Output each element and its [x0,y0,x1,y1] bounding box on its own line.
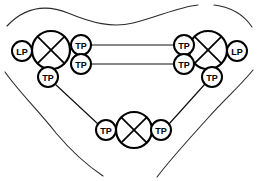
node-tp-right-down[interactable]: TP [202,67,222,87]
node-tp-bottom-left-label: TP [100,126,112,136]
node-lp-right-label: LP [231,47,243,57]
big-node-bottom[interactable] [116,112,152,148]
diagram-canvas: LP LP TP TP TP TP TP TP [0,0,257,181]
node-lp-left-label: LP [16,47,28,57]
region-boundary-group [5,5,253,177]
node-lp-right[interactable]: LP [227,41,247,61]
node-tp-right-down-label: TP [206,73,218,83]
node-tp-left-down-label: TP [42,73,54,83]
boundary-left-curve [5,72,103,176]
node-tp-right-lower-label: TP [178,60,190,70]
node-tp-left-upper-label: TP [75,41,87,51]
link-left-diagonal [55,84,98,124]
node-tp-left-upper[interactable]: TP [71,35,91,55]
node-lp-left[interactable]: LP [12,41,32,61]
node-tp-bottom-right[interactable]: TP [151,120,171,140]
boundary-top-left-curve [7,5,198,26]
node-tp-left-down[interactable]: TP [38,67,58,87]
node-tp-left-lower[interactable]: TP [71,54,91,74]
node-tp-right-lower[interactable]: TP [174,54,194,74]
node-tp-bottom-right-label: TP [155,126,167,136]
network-topology-diagram: LP LP TP TP TP TP TP TP [0,0,257,181]
node-tp-right-upper[interactable]: TP [174,35,194,55]
boundary-top-right-curve [214,5,252,27]
node-tp-bottom-left[interactable]: TP [96,120,116,140]
link-right-diagonal [169,84,205,124]
big-node-left[interactable] [32,31,70,69]
node-tp-left-lower-label: TP [75,60,87,70]
boundary-right-curve [157,70,253,177]
node-tp-right-upper-label: TP [178,41,190,51]
